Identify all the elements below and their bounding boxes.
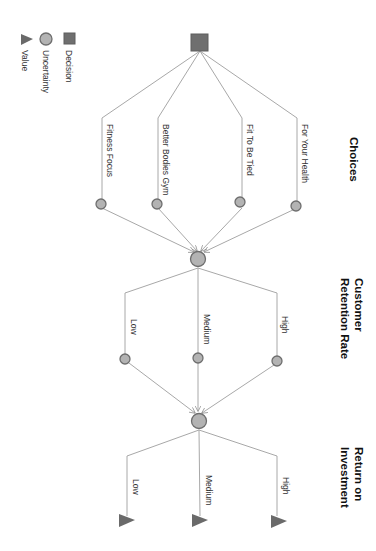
retention-node-high[interactable] bbox=[272, 356, 282, 366]
legend: Decision Uncertainty Value bbox=[20, 33, 75, 94]
roi-value-high-triangle-icon[interactable] bbox=[271, 515, 287, 528]
header-roi-line1: Return on bbox=[353, 447, 365, 501]
choice-label-better-bodies-gym: Better Bodies Gym bbox=[161, 124, 171, 195]
retention-uncertainty-node[interactable] bbox=[191, 252, 206, 267]
legend-decision-label: Decision bbox=[64, 50, 74, 83]
edges-decision-to-choices bbox=[102, 51, 297, 205]
header-roi-line2: Investment bbox=[339, 447, 351, 508]
legend-uncertainty-circle-icon bbox=[40, 33, 52, 45]
edges-choices-to-retention bbox=[102, 208, 297, 252]
legend-decision-square-icon bbox=[64, 33, 75, 44]
choice-node-fit-to-be-tied[interactable] bbox=[235, 197, 245, 207]
edges-retention-to-roi bbox=[125, 360, 277, 413]
choice-label-fitness-focus: Fitness Focus bbox=[105, 124, 115, 177]
roi-uncertainty-node[interactable] bbox=[192, 414, 207, 429]
retention-label-low: Low bbox=[129, 319, 139, 335]
roi-label-low: Low bbox=[131, 479, 141, 495]
retention-label-high: High bbox=[280, 316, 290, 334]
header-retention-line1: Customer bbox=[353, 278, 365, 332]
retention-node-medium[interactable] bbox=[193, 353, 203, 363]
header-retention-line2: Retention Rate bbox=[339, 278, 351, 359]
decision-tree-diagram: Decision Uncertainty Value Choices Custo… bbox=[0, 0, 376, 551]
edges-retention-outcomes bbox=[125, 268, 277, 360]
legend-value-triangle-icon bbox=[21, 34, 33, 45]
choice-label-for-your-health: For Your Health bbox=[300, 124, 310, 183]
legend-uncertainty-label: Uncertainty bbox=[41, 50, 51, 94]
choice-label-fit-to-be-tied: Fit To Be Tied bbox=[245, 124, 255, 176]
header-choices: Choices bbox=[348, 137, 360, 182]
decision-node-square-icon[interactable] bbox=[191, 34, 208, 51]
legend-value-label: Value bbox=[20, 50, 30, 71]
retention-node-low[interactable] bbox=[120, 354, 130, 364]
roi-label-medium: Medium bbox=[204, 475, 214, 505]
retention-label-medium: Medium bbox=[202, 314, 212, 344]
edges-roi-outcomes bbox=[127, 430, 277, 516]
roi-label-high: High bbox=[281, 477, 291, 495]
choice-node-for-your-health[interactable] bbox=[291, 201, 301, 211]
choice-node-better-bodies-gym[interactable] bbox=[152, 199, 162, 209]
choice-node-fitness-focus[interactable] bbox=[96, 199, 106, 209]
